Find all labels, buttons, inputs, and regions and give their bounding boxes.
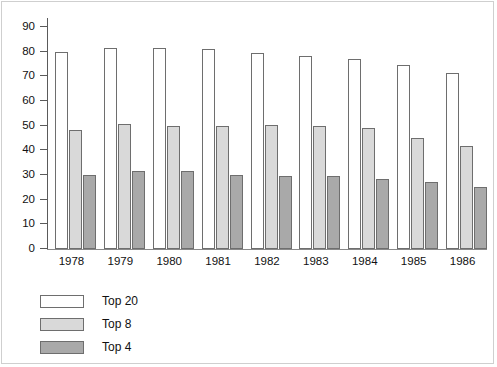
bar-1980-top-20 bbox=[153, 48, 166, 249]
legend-item-top-20[interactable]: Top 20 bbox=[40, 292, 240, 315]
white-swatch bbox=[40, 295, 84, 308]
bar-1984-top-20 bbox=[348, 59, 361, 249]
bar-1984-top-8 bbox=[362, 128, 375, 249]
bar-group-1983 bbox=[299, 18, 340, 249]
bar-group-1979 bbox=[104, 18, 145, 249]
y-tick-mark bbox=[40, 248, 47, 249]
y-tick-mark bbox=[40, 100, 47, 101]
legend-label: Top 4 bbox=[102, 338, 131, 357]
bar-1978-top-4 bbox=[83, 175, 96, 249]
y-tick-20: 20 bbox=[40, 199, 47, 200]
y-tick-label: 60 bbox=[22, 92, 35, 108]
x-tick-label-1985: 1985 bbox=[389, 254, 438, 268]
bar-group-1981 bbox=[202, 18, 243, 249]
bar-group-1978 bbox=[55, 18, 96, 249]
bar-1978-top-8 bbox=[69, 130, 82, 249]
bar-group-1982 bbox=[251, 18, 292, 249]
x-tick-label-1979: 1979 bbox=[96, 254, 145, 268]
y-tick-50: 50 bbox=[40, 125, 47, 126]
x-tick-label-1978: 1978 bbox=[47, 254, 96, 268]
y-tick-30: 30 bbox=[40, 174, 47, 175]
y-tick-60: 60 bbox=[40, 100, 47, 101]
y-tick-90: 90 bbox=[40, 26, 47, 27]
bar-1986-top-20 bbox=[446, 73, 459, 249]
y-tick-mark bbox=[40, 26, 47, 27]
bar-1982-top-8 bbox=[265, 125, 278, 249]
y-tick-label: 80 bbox=[22, 43, 35, 59]
bar-1982-top-4 bbox=[279, 176, 292, 249]
bar-group-1980 bbox=[153, 18, 194, 249]
bar-1984-top-4 bbox=[376, 179, 389, 249]
bar-1979-top-20 bbox=[104, 48, 117, 249]
bar-1978-top-20 bbox=[55, 52, 68, 249]
dark-gray-swatch bbox=[40, 341, 84, 354]
legend-label: Top 8 bbox=[102, 315, 131, 334]
y-tick-40: 40 bbox=[40, 149, 47, 150]
light-gray-swatch bbox=[40, 318, 84, 331]
y-tick-label: 20 bbox=[22, 191, 35, 207]
y-tick-label: 0 bbox=[29, 240, 35, 256]
bar-1985-top-20 bbox=[397, 65, 410, 250]
x-tick-label-1983: 1983 bbox=[291, 254, 340, 268]
bar-1981-top-20 bbox=[202, 49, 215, 249]
y-tick-mark bbox=[40, 199, 47, 200]
legend-label: Top 20 bbox=[102, 292, 138, 311]
chart-legend: Top 20Top 8Top 4 bbox=[40, 292, 240, 361]
chart-figure: 0102030405060708090 19781979198019811982… bbox=[0, 0, 497, 367]
y-tick-label: 70 bbox=[22, 67, 35, 83]
y-tick-mark bbox=[40, 51, 47, 52]
x-tick-label-1984: 1984 bbox=[340, 254, 389, 268]
plot-area: 0102030405060708090 19781979198019811982… bbox=[47, 18, 487, 250]
bar-1983-top-4 bbox=[327, 176, 340, 249]
y-tick-mark bbox=[40, 174, 47, 175]
bar-group-1985 bbox=[397, 18, 438, 249]
y-tick-label: 10 bbox=[22, 215, 35, 231]
bar-1981-top-4 bbox=[230, 175, 243, 249]
bar-1981-top-8 bbox=[216, 126, 229, 249]
y-tick-mark bbox=[40, 125, 47, 126]
bar-1980-top-8 bbox=[167, 126, 180, 249]
bar-1979-top-8 bbox=[118, 124, 131, 249]
bar-1983-top-20 bbox=[299, 56, 312, 249]
y-tick-mark bbox=[40, 75, 47, 76]
x-tick-label-1982: 1982 bbox=[243, 254, 292, 268]
bar-group-1986 bbox=[446, 18, 487, 249]
y-tick-80: 80 bbox=[40, 51, 47, 52]
bar-1985-top-4 bbox=[425, 182, 438, 249]
bar-1979-top-4 bbox=[132, 171, 145, 249]
bar-1983-top-8 bbox=[313, 126, 326, 249]
x-tick-label-1980: 1980 bbox=[145, 254, 194, 268]
bar-1982-top-20 bbox=[251, 53, 264, 249]
y-tick-10: 10 bbox=[40, 223, 47, 224]
y-tick-70: 70 bbox=[40, 75, 47, 76]
y-tick-label: 40 bbox=[22, 141, 35, 157]
bar-1986-top-4 bbox=[474, 187, 487, 249]
y-tick-mark bbox=[40, 149, 47, 150]
bar-1986-top-8 bbox=[460, 146, 473, 249]
y-tick-label: 90 bbox=[22, 18, 35, 34]
bar-1980-top-4 bbox=[181, 171, 194, 249]
legend-item-top-4[interactable]: Top 4 bbox=[40, 338, 240, 361]
y-axis-line bbox=[47, 18, 48, 250]
y-tick-mark bbox=[40, 223, 47, 224]
bar-group-1984 bbox=[348, 18, 389, 249]
legend-item-top-8[interactable]: Top 8 bbox=[40, 315, 240, 338]
x-tick-label-1986: 1986 bbox=[438, 254, 487, 268]
bar-1985-top-8 bbox=[411, 138, 424, 249]
x-axis-line bbox=[47, 249, 487, 250]
y-tick-label: 50 bbox=[22, 117, 35, 133]
x-tick-label-1981: 1981 bbox=[194, 254, 243, 268]
y-tick-0: 0 bbox=[40, 248, 47, 249]
y-tick-label: 30 bbox=[22, 166, 35, 182]
